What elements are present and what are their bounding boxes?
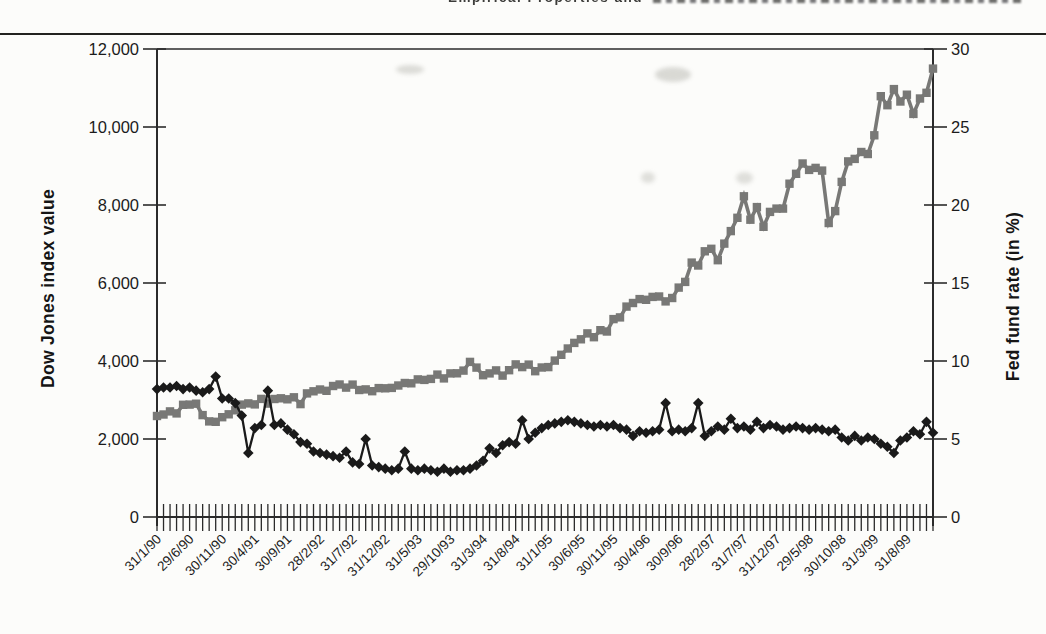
dow-marker	[825, 219, 833, 227]
dow-marker	[779, 204, 787, 212]
tick-label: 20	[951, 196, 969, 214]
dow-marker	[603, 327, 611, 335]
dow-marker	[694, 261, 702, 269]
scan-smudge	[396, 65, 424, 74]
dow-marker	[922, 89, 930, 97]
dow-marker	[929, 64, 937, 72]
fed-marker	[693, 398, 704, 409]
dow-marker	[909, 110, 917, 118]
dow-marker	[740, 192, 748, 200]
tick-label: 30	[951, 40, 969, 58]
dow-marker	[890, 85, 898, 93]
tick-label: 15	[951, 274, 969, 292]
dow-marker	[870, 131, 878, 139]
fed-marker	[399, 446, 410, 457]
tick-label: 31/8/99	[872, 532, 914, 574]
dow-jones-series	[153, 64, 937, 426]
dow-marker	[714, 256, 722, 264]
dow-fed-line-chart: 02,0004,0006,0008,00010,00012,0000510152…	[0, 0, 1046, 634]
dow-marker	[192, 400, 200, 408]
dow-marker	[785, 180, 793, 188]
tick-label: 10,000	[89, 118, 139, 136]
scan-smudge	[736, 172, 753, 184]
dow-marker	[759, 223, 767, 231]
fed-marker	[360, 434, 371, 445]
dow-marker	[838, 178, 846, 186]
dow-marker	[472, 363, 480, 371]
dow-marker	[681, 278, 689, 286]
tick-label: 5	[951, 430, 960, 448]
dow-marker	[792, 170, 800, 178]
scanned-page: Empirical Properties and Dow Jones index…	[0, 0, 1046, 634]
tick-label: 10	[951, 352, 969, 370]
fed-marker	[921, 417, 932, 428]
fed-marker	[210, 371, 221, 382]
tick-label: 0	[951, 508, 960, 526]
dow-marker	[707, 245, 715, 253]
dow-marker	[668, 294, 676, 302]
fed-marker	[517, 415, 528, 426]
fed-marker	[243, 448, 254, 459]
tick-label: 2,000	[98, 430, 139, 448]
fed-rate-series	[152, 371, 939, 477]
axes: 02,0004,0006,0008,00010,00012,0000510152…	[89, 40, 970, 526]
fed-marker	[928, 427, 939, 438]
dow-marker	[903, 91, 911, 99]
tick-label: 6,000	[98, 274, 139, 292]
tick-label: 0	[130, 508, 139, 526]
dow-marker	[172, 409, 180, 417]
fed-marker	[660, 398, 671, 409]
x-tick-labels: 31/1/9029/6/9030/11/9030/4/9130/9/9128/2…	[122, 531, 914, 579]
dow-marker	[746, 216, 754, 224]
tick-label: 12,000	[89, 40, 139, 58]
dow-marker	[818, 166, 826, 174]
tick-label: 4,000	[98, 352, 139, 370]
dow-marker	[616, 313, 624, 321]
dow-marker	[877, 92, 885, 100]
dow-marker	[459, 366, 467, 374]
tick-label: 8,000	[98, 196, 139, 214]
dow-marker	[864, 150, 872, 158]
dow-marker	[831, 207, 839, 215]
dow-marker	[733, 214, 741, 222]
tick-label: 25	[951, 118, 969, 136]
dow-marker	[727, 227, 735, 235]
dow-marker	[883, 101, 891, 109]
scan-smudge	[655, 67, 691, 82]
dow-marker	[720, 239, 728, 247]
fed-marker	[263, 385, 274, 396]
dow-marker	[296, 400, 304, 408]
dow-marker	[753, 203, 761, 211]
scan-smudge	[641, 172, 655, 183]
